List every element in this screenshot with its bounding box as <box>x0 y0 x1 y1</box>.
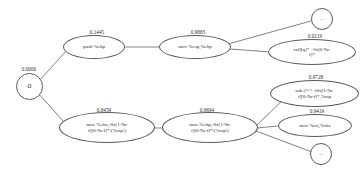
node-label-root: Ø <box>26 84 34 90</box>
node-label-mov-ebp: mov %ebp,-0x[1-9a- f][0-9a-f]*\(%rsp\) <box>187 122 233 133</box>
edge-mov-ebp-to-mov-rsi-rbx <box>257 126 278 128</box>
node-label-mov-ebx: mov %ebx,-0x[1-9a- f][0-9a-f]*\(%rsp\) <box>84 122 130 133</box>
edge-root-to-push-ebp <box>40 50 67 80</box>
node-weight-root: 0.0000 <box>9 66 49 72</box>
node-root[interactable]: Ø <box>16 73 43 100</box>
node-label-ellipsis-bottom: ... <box>317 152 324 157</box>
node-ellipsis-top[interactable]: ... <box>311 8 333 30</box>
node-sub-rsp[interactable]: sub (?<! -)0x[1-9a- f][0-9a-f]*,%rsp <box>270 80 359 107</box>
node-label-mov-rsi-rbx: mov %rsi,%rbx <box>297 123 332 128</box>
node-call-q[interactable]: call[q]* +0x[0-9a- f]* <box>268 39 356 65</box>
node-label-call-q: call[q]* +0x[0-9a- f]* <box>292 47 333 58</box>
node-label-sub-rsp: sub (?<! -)0x[1-9a- f][0-9a-f]*,%rsp <box>293 88 335 99</box>
node-label-ellipsis-top: ... <box>318 17 325 22</box>
node-label-mov-esp-ebp: mov %esp,%ebp <box>176 44 214 49</box>
edge-mov-esp-ebp-to-call-q <box>230 49 270 52</box>
edge-root-to-mov-ebx <box>38 93 64 122</box>
node-push-ebp[interactable]: push %ebp <box>63 35 125 59</box>
node-label-push-ebp: push %ebp <box>81 44 107 49</box>
diagram-canvas: 0.0000Ø0.1445push %ebp0.9883mov %esp,%eb… <box>0 0 362 173</box>
node-mov-ebp[interactable]: mov %ebp,-0x[1-9a- f][0-9a-f]*\(%rsp\) <box>162 112 258 143</box>
node-mov-esp-ebp[interactable]: mov %esp,%ebp <box>159 35 231 59</box>
node-mov-rsi-rbx[interactable]: mov %rsi,%rbx <box>278 114 352 137</box>
node-mov-ebx[interactable]: mov %ebx,-0x[1-9a- f][0-9a-f]*\(%rsp\) <box>59 112 155 143</box>
node-ellipsis-bottom[interactable]: ... <box>310 143 332 165</box>
